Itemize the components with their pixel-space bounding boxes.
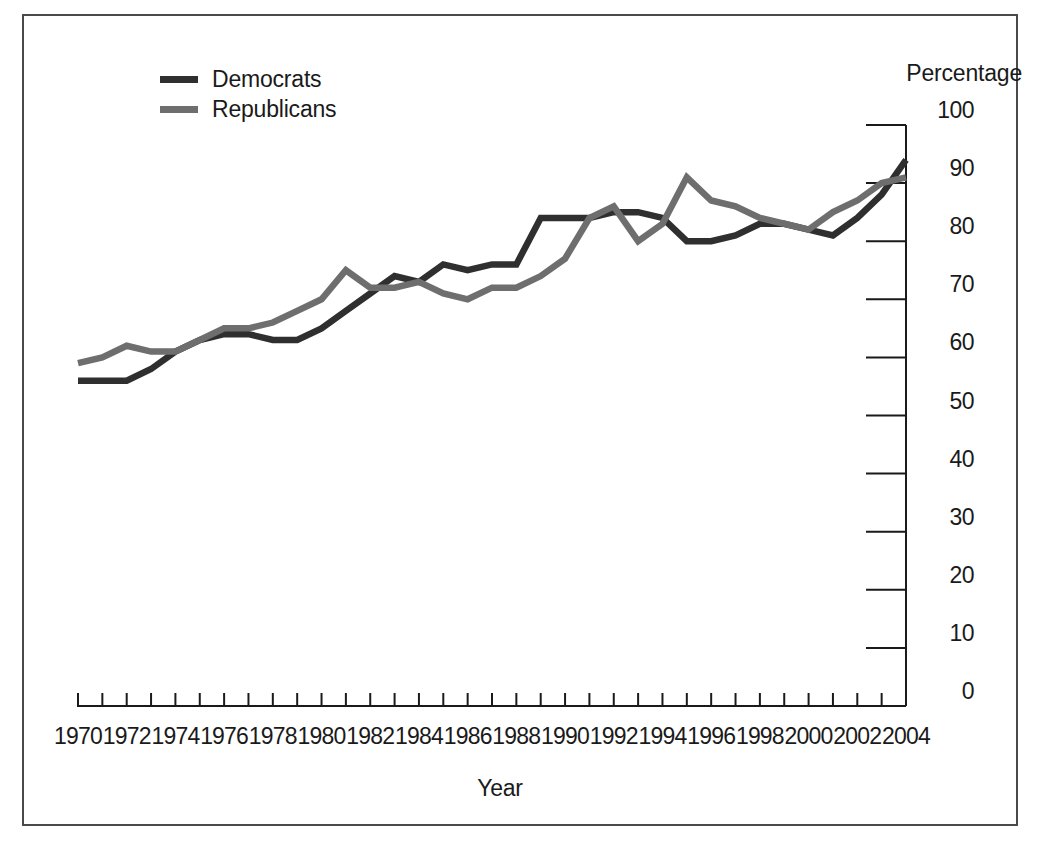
y-tick-label: 0 (914, 678, 974, 705)
legend-label-democrats: Democrats (212, 66, 321, 93)
series-line-republicans (78, 177, 906, 363)
x-tick-label: 2004 (875, 723, 937, 750)
y-tick-label: 90 (914, 155, 974, 182)
plot-area: Democrats Republicans Percentage Year 01… (0, 0, 1046, 865)
chart-figure: Democrats Republicans Percentage Year 01… (0, 0, 1046, 865)
y-tick-label: 80 (914, 213, 974, 240)
y-tick-label: 30 (914, 504, 974, 531)
y-axis-title: Percentage (906, 60, 1022, 87)
x-axis (77, 693, 906, 706)
legend-swatch-democrats (160, 76, 198, 83)
legend-swatch-republicans (160, 106, 198, 113)
x-axis-title: Year (0, 775, 1000, 802)
y-tick-label: 20 (914, 562, 974, 589)
data-series-group (78, 160, 906, 381)
legend-item-democrats: Democrats (160, 64, 460, 94)
chart-legend: Democrats Republicans (160, 64, 460, 124)
y-tick-label: 100 (914, 97, 974, 124)
series-line-democrats (78, 160, 906, 381)
y-tick-label: 40 (914, 446, 974, 473)
y-axis (866, 125, 906, 706)
y-tick-label: 60 (914, 329, 974, 356)
legend-label-republicans: Republicans (212, 96, 336, 123)
y-tick-label: 50 (914, 388, 974, 415)
y-tick-label: 10 (914, 620, 974, 647)
y-tick-label: 70 (914, 271, 974, 298)
legend-item-republicans: Republicans (160, 94, 460, 124)
